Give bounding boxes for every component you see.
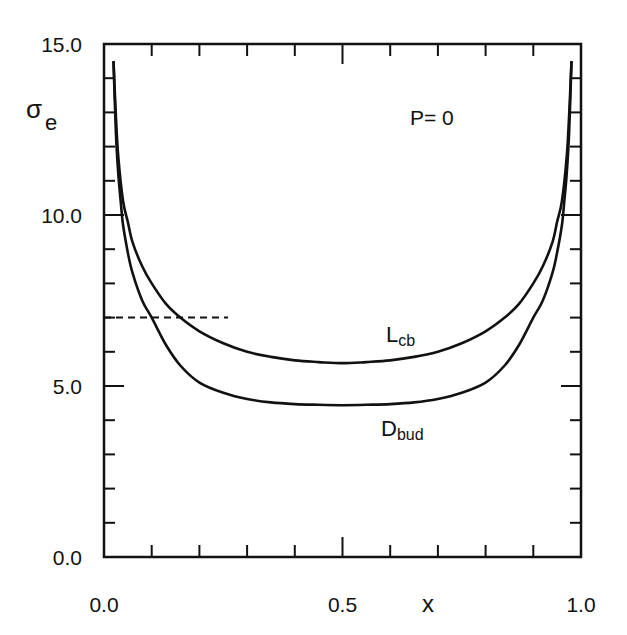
y-tick-label: 5.0 [53,375,82,398]
x-axis-label: x [422,590,434,617]
plot-frame [104,44,581,557]
curve-label-d-sub: bud [397,426,424,443]
parameter-annotation: P= 0 [410,106,454,129]
curve-l-cb [114,61,572,363]
y-axis-subscript: e [45,110,57,135]
y-axis-symbol: σ [26,94,42,124]
y-tick-label: 15.0 [41,33,82,56]
x-tick-label: 0.0 [89,593,118,616]
x-tick-label: 1.0 [566,593,595,616]
axis-ticks [104,44,581,557]
curve-label-l-sub: cb [398,332,415,349]
y-tick-label: 0.0 [53,546,82,569]
curve-label-d-bud: Dbud [381,416,424,443]
curve-d-bud [114,61,572,405]
y-axis-label: σe [26,94,57,135]
curve-label-l-main: L [386,322,398,347]
chart: 0.00.51.00.05.010.015.0 σe x P= 0 Lcb Db… [0,0,627,635]
curve-label-l-cb: Lcb [386,322,415,349]
curve-label-d-main: D [381,416,397,441]
axis-tick-labels: 0.00.51.00.05.010.015.0 [41,33,595,616]
y-tick-label: 10.0 [41,204,82,227]
x-tick-label: 0.5 [328,593,357,616]
